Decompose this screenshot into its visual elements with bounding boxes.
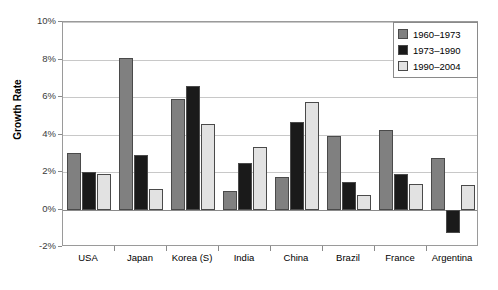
legend-item: 1973–1990 — [398, 42, 473, 58]
y-axis-tick-label: 6% — [10, 90, 56, 101]
y-axis-tick-label: -2% — [10, 240, 56, 251]
bar — [223, 191, 237, 210]
bar — [149, 189, 163, 210]
bar — [238, 163, 252, 210]
bar — [305, 102, 319, 210]
y-axis-tick-label: 10% — [10, 15, 56, 26]
legend-label: 1960–1973 — [413, 29, 461, 40]
bar — [275, 177, 289, 210]
x-axis-tick-mark — [166, 246, 167, 251]
bar — [446, 210, 460, 233]
bar — [342, 182, 356, 209]
bar — [253, 147, 267, 210]
y-axis-tick-mark — [58, 246, 62, 247]
x-axis-tick-label: Brazil — [336, 252, 360, 263]
legend-item: 1960–1973 — [398, 26, 473, 42]
bar — [97, 174, 111, 210]
bar — [290, 122, 304, 209]
bar — [82, 172, 96, 210]
y-axis-tick-mark — [58, 96, 62, 97]
x-axis-tick-label: USA — [78, 252, 98, 263]
y-axis-tick-label: 0% — [10, 203, 56, 214]
x-axis-tick-label: Japan — [127, 252, 153, 263]
x-axis-tick-label: Korea (S) — [172, 252, 213, 263]
bar — [67, 153, 81, 209]
x-axis-tick-mark — [270, 246, 271, 251]
gridline — [63, 210, 477, 211]
y-axis-title: Growth Rate — [12, 65, 23, 155]
y-axis-tick-label: 2% — [10, 165, 56, 176]
bar — [379, 130, 393, 210]
y-axis-tick-label: 8% — [10, 53, 56, 64]
growth-rate-bar-chart: Growth Rate 10%8%6%4%2%0%-2%USAJapanKore… — [0, 0, 498, 290]
y-axis-tick-mark — [58, 209, 62, 210]
bar — [357, 195, 371, 209]
x-axis-tick-mark — [426, 246, 427, 251]
bar — [171, 99, 185, 210]
x-axis-tick-mark — [218, 246, 219, 251]
legend-swatch-icon — [398, 29, 408, 39]
legend-item: 1990–2004 — [398, 58, 473, 74]
x-axis-tick-mark — [114, 246, 115, 251]
bar — [134, 155, 148, 209]
bar — [327, 136, 341, 209]
x-axis-tick-label: India — [234, 252, 255, 263]
y-axis-tick-label: 4% — [10, 128, 56, 139]
x-axis-tick-mark — [374, 246, 375, 251]
bar — [409, 184, 423, 209]
y-axis-tick-mark — [58, 171, 62, 172]
x-axis-tick-mark — [322, 246, 323, 251]
x-axis-tick-label: France — [385, 252, 415, 263]
y-axis-tick-mark — [58, 134, 62, 135]
legend-swatch-icon — [398, 61, 408, 71]
bar — [201, 124, 215, 209]
chart-legend: 1960–1973 1973–1990 1990–2004 — [393, 22, 478, 78]
y-axis-tick-mark — [58, 59, 62, 60]
bar — [394, 174, 408, 210]
legend-label: 1990–2004 — [413, 61, 461, 72]
legend-swatch-icon — [398, 45, 408, 55]
bar — [431, 158, 445, 210]
x-axis-tick-label: China — [284, 252, 309, 263]
bar — [186, 86, 200, 210]
bar — [461, 185, 475, 209]
bar — [119, 58, 133, 210]
legend-label: 1973–1990 — [413, 45, 461, 56]
y-axis-tick-mark — [58, 21, 62, 22]
x-axis-tick-label: Argentina — [432, 252, 473, 263]
